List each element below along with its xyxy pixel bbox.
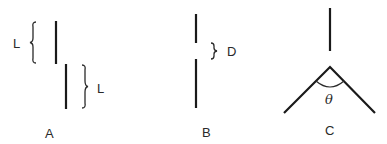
label-length-upper: L — [13, 36, 20, 51]
panel-c: θ C — [284, 8, 375, 138]
panel-a: L L A — [13, 21, 104, 141]
right-brace-icon — [82, 65, 88, 108]
angle-arc-icon — [316, 81, 344, 87]
caption-c: C — [325, 123, 334, 138]
caption-a: A — [45, 126, 54, 141]
panel-b: D B — [196, 14, 236, 140]
label-gap: D — [227, 44, 236, 59]
caption-b: B — [202, 125, 211, 140]
left-brace-icon — [30, 22, 36, 63]
diagram-canvas: L L A D B θ C — [0, 0, 387, 144]
label-length-lower: L — [97, 81, 104, 96]
label-angle: θ — [325, 92, 333, 107]
gap-brace-icon — [211, 43, 217, 59]
